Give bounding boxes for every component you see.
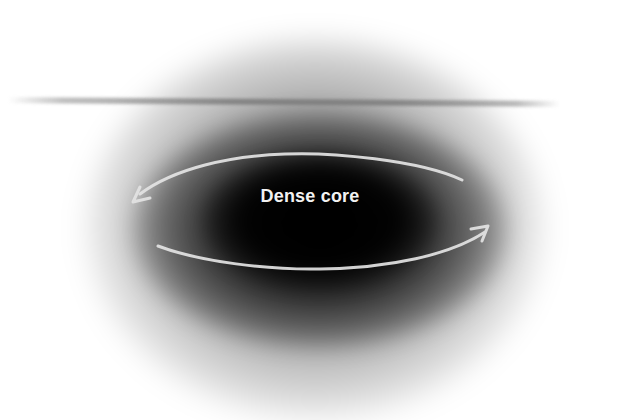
dense-core-label: Dense core: [250, 186, 370, 207]
lower-arrow-arc: [158, 232, 485, 269]
